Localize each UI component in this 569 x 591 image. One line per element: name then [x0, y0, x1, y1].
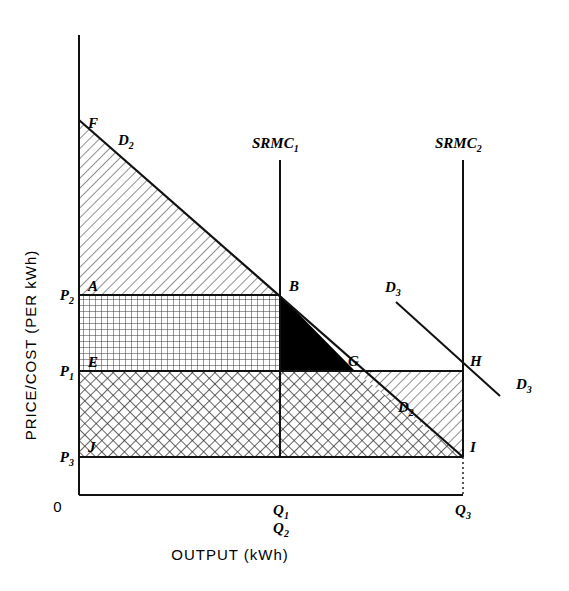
x-tick-q1: Q1	[273, 502, 289, 521]
point-label-B: B	[288, 278, 299, 294]
point-label-I: I	[469, 439, 477, 455]
point-label-G: G	[348, 353, 359, 369]
region-revenue-band-upper	[79, 295, 280, 371]
x-tick-labels: Q1 Q2 Q3	[273, 502, 471, 539]
point-label-J: J	[87, 439, 96, 455]
diagram-canvas: F A B E C G H J I D2 D2 D3 D3 SRMC1 SRMC…	[0, 0, 569, 591]
curve-label-srmc1: SRMC1	[252, 135, 299, 154]
x-axis-title: OUTPUT (kWh)	[171, 546, 289, 563]
point-label-C: C	[289, 354, 300, 370]
y-tick-labels: P2 P1 P3	[60, 287, 74, 468]
y-tick-p2: P2	[60, 287, 74, 306]
y-tick-p3: P3	[60, 449, 74, 468]
origin-label: 0	[53, 498, 62, 515]
x-tick-q2: Q2	[273, 520, 289, 539]
curve-label-d2-upper: D2	[117, 132, 134, 151]
point-label-H: H	[469, 353, 483, 369]
curve-label-d3-upper: D3	[384, 279, 401, 298]
economics-diagram: F A B E C G H J I D2 D2 D3 D3 SRMC1 SRMC…	[0, 0, 569, 591]
curve-label-srmc2: SRMC2	[435, 135, 482, 154]
y-axis-title: PRICE/COST (PER kWh)	[22, 250, 39, 441]
point-label-E: E	[87, 354, 98, 370]
point-label-F: F	[87, 115, 98, 131]
point-label-A: A	[87, 278, 98, 294]
curve-label-d3-lower: D3	[515, 376, 532, 395]
y-tick-p1: P1	[60, 363, 74, 382]
x-tick-q3: Q3	[455, 502, 471, 521]
